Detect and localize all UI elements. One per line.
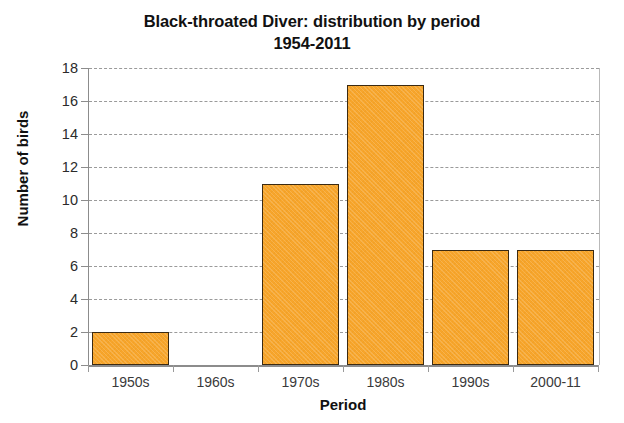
y-axis-tick-label: 4 [38, 292, 78, 307]
y-axis-tick-label: 6 [38, 259, 78, 274]
x-axis-tick [428, 365, 429, 372]
x-axis-tick-label: 1980s [343, 375, 428, 389]
x-axis-tick [598, 365, 599, 372]
bar [262, 184, 339, 366]
y-axis-tick [81, 299, 88, 300]
x-axis-tick [513, 365, 514, 372]
x-axis-title: Period [88, 396, 598, 413]
chart-title-line1: Black-throated Diver: distribution by pe… [144, 12, 481, 30]
x-axis-tick-label: 2000-11 [513, 375, 598, 389]
y-axis-tick [81, 68, 88, 69]
y-axis-tick-label: 0 [38, 358, 78, 373]
bar-chart: Black-throated Diver: distribution by pe… [0, 0, 624, 423]
chart-title-line2: 1954-2011 [0, 32, 624, 54]
x-axis-tick-label: 1970s [258, 375, 343, 389]
x-axis-tick [88, 365, 89, 372]
y-axis-tick [81, 134, 88, 135]
y-axis-tick [81, 167, 88, 168]
y-axis-tick [81, 332, 88, 333]
y-axis-tick-label: 10 [38, 193, 78, 208]
y-axis-tick [81, 200, 88, 201]
y-axis-tick-label: 14 [38, 127, 78, 142]
x-axis-tick [173, 365, 174, 372]
bar [432, 250, 509, 366]
x-axis-tick [343, 365, 344, 372]
x-axis-tick [258, 365, 259, 372]
bar [92, 332, 169, 365]
y-axis-tick [81, 101, 88, 102]
x-axis-tick-label: 1950s [88, 375, 173, 389]
y-axis-tick [81, 266, 88, 267]
chart-title: Black-throated Diver: distribution by pe… [0, 10, 624, 54]
bars-layer [88, 68, 598, 365]
y-axis-tick [81, 365, 88, 366]
y-axis-tick-label: 2 [38, 325, 78, 340]
y-axis-tick-label: 18 [38, 61, 78, 76]
y-axis-tick-label: 16 [38, 94, 78, 109]
y-axis-tick-label: 8 [38, 226, 78, 241]
bar [517, 250, 594, 366]
y-axis-tick [81, 233, 88, 234]
x-axis-tick-label: 1990s [428, 375, 513, 389]
x-axis-tick-label: 1960s [173, 375, 258, 389]
y-axis-tick-label: 12 [38, 160, 78, 175]
y-axis-title: Number of birds [14, 59, 31, 279]
bar [347, 85, 424, 366]
